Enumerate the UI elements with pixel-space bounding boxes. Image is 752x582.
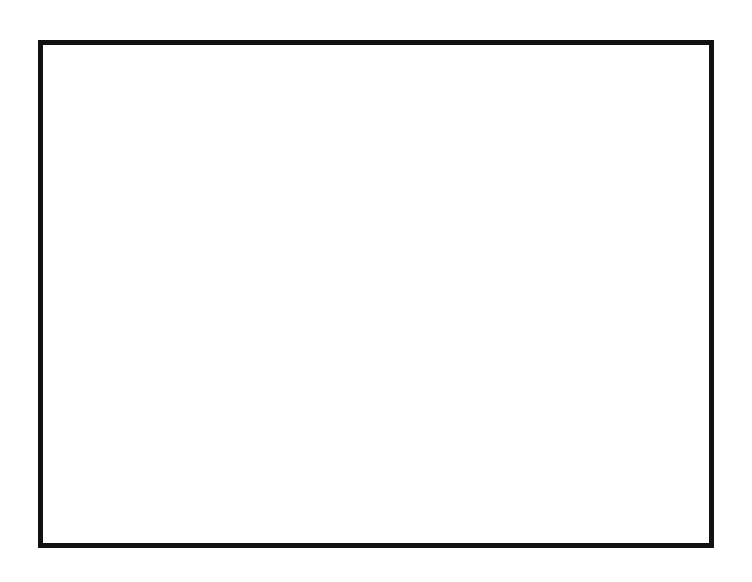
drawing-sheet — [0, 0, 752, 582]
technical-drawing-canvas — [0, 0, 752, 582]
sheet-border — [41, 43, 712, 546]
